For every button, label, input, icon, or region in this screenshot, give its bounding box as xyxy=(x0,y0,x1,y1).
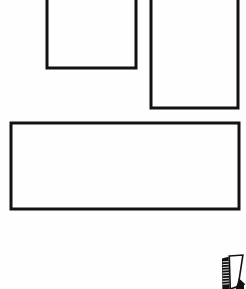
rectangle-upper-right xyxy=(151,0,238,108)
drawing-surface xyxy=(0,0,246,289)
rectangle-wide-lower xyxy=(11,123,239,209)
rectangle-upper-left xyxy=(47,0,136,68)
drawing-canvas: Line Drawing Fragment xyxy=(0,0,246,289)
hatched-marker-icon xyxy=(222,255,244,289)
